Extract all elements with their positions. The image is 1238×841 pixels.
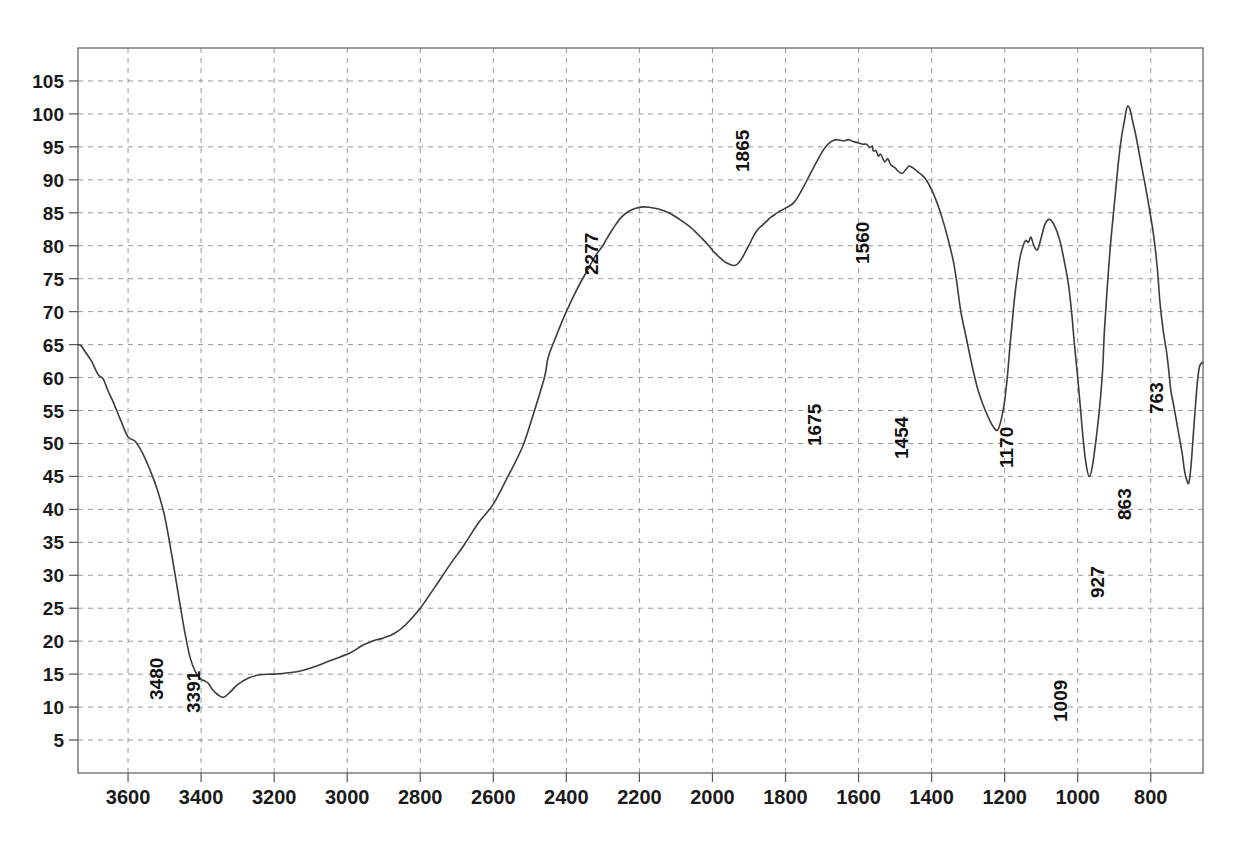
y-tick-label-45: 45: [43, 466, 65, 487]
y-tick-label-50: 50: [43, 433, 64, 454]
x-tick-label-2200: 2200: [617, 786, 662, 808]
x-tick-label-1600: 1600: [836, 786, 881, 808]
y-tick-label-75: 75: [43, 269, 65, 290]
peak-label-1560: 1560: [852, 222, 873, 264]
y-tick-label-60: 60: [43, 368, 64, 389]
y-tick-label-5: 5: [53, 730, 64, 751]
peak-label-763: 763: [1146, 382, 1167, 414]
x-tick-label-2000: 2000: [690, 786, 735, 808]
x-axis-labels: 3600340032003000280026002400220020001800…: [106, 786, 1168, 808]
x-tick-label-2600: 2600: [471, 786, 516, 808]
ir-spectrum-chart: 5101520253035404550556065707580859095100…: [0, 0, 1238, 841]
y-tick-label-80: 80: [43, 236, 64, 257]
peak-label-1675: 1675: [804, 403, 825, 446]
x-tick-label-1400: 1400: [909, 786, 954, 808]
x-tick-label-1000: 1000: [1055, 786, 1100, 808]
y-tick-label-95: 95: [43, 137, 65, 158]
peak-label-1009: 1009: [1050, 680, 1071, 722]
peak-label-927: 927: [1087, 566, 1108, 598]
y-tick-label-15: 15: [43, 664, 65, 685]
y-tick-label-55: 55: [43, 401, 65, 422]
peak-label-1454: 1454: [891, 416, 912, 459]
x-tick-label-800: 800: [1134, 786, 1167, 808]
peak-label-2277: 2277: [581, 233, 602, 275]
y-tick-label-30: 30: [43, 565, 64, 586]
peak-label-1865: 1865: [732, 129, 753, 172]
spectrum-plot: 5101520253035404550556065707580859095100…: [0, 0, 1238, 841]
peak-label-1170: 1170: [996, 427, 1017, 468]
y-tick-label-40: 40: [43, 499, 64, 520]
y-tick-label-90: 90: [43, 170, 64, 191]
y-tick-label-20: 20: [43, 631, 64, 652]
x-tick-label-1200: 1200: [982, 786, 1027, 808]
y-tick-label-65: 65: [43, 335, 65, 356]
y-tick-label-70: 70: [43, 302, 64, 323]
x-tick-label-3600: 3600: [106, 786, 151, 808]
peak-label-3391: 3391: [183, 670, 204, 713]
y-axis-tickmarks: [69, 81, 78, 740]
peak-label-3480: 3480: [146, 658, 167, 700]
y-tick-label-105: 105: [32, 71, 64, 92]
x-tick-label-3400: 3400: [179, 786, 224, 808]
x-tick-label-1800: 1800: [763, 786, 808, 808]
y-tick-label-25: 25: [43, 598, 65, 619]
x-tick-label-3200: 3200: [252, 786, 297, 808]
x-tick-label-3000: 3000: [325, 786, 370, 808]
y-tick-label-35: 35: [43, 532, 65, 553]
x-tick-label-2400: 2400: [544, 786, 589, 808]
peak-label-863: 863: [1114, 488, 1135, 520]
y-tick-label-10: 10: [43, 697, 64, 718]
x-tick-label-2800: 2800: [398, 786, 443, 808]
y-tick-label-100: 100: [32, 104, 64, 125]
y-tick-label-85: 85: [43, 203, 65, 224]
